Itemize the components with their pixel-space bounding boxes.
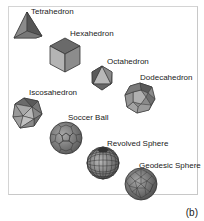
revolved-sphere-label: Revolved Sphere — [107, 139, 168, 148]
tetrahedron-label: Tetrahedron — [31, 7, 74, 16]
geodesic-sphere-icon — [124, 167, 158, 201]
hexahedron-icon — [49, 37, 81, 73]
dodecahedron-label: Dodecahedron — [140, 73, 192, 82]
dodecahedron-icon — [124, 82, 156, 114]
geodesic-sphere-label: Geodesic Sphere — [139, 161, 201, 170]
icosahedron-label: Iscosahedron — [29, 88, 77, 97]
figure-caption: (b) — [186, 207, 198, 218]
icosahedron-icon — [12, 97, 43, 129]
soccer-ball-icon — [49, 121, 83, 155]
soccer-ball-label: Soccer Ball — [68, 113, 108, 122]
revolved-sphere-icon — [86, 146, 120, 180]
hexahedron-label: Hexahedron — [70, 29, 114, 38]
octahedron-label: Octahedron — [107, 57, 149, 66]
octahedron-icon — [90, 65, 114, 91]
